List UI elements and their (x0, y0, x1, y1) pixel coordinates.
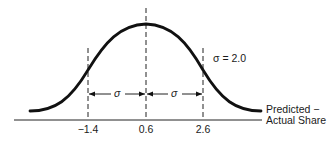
arrow-right-icon (139, 92, 145, 97)
arrow-right-icon (196, 92, 202, 97)
axis-label-line2: Actual Share (266, 115, 326, 126)
arrow-left-icon (147, 92, 153, 97)
arrow-left-icon (89, 92, 95, 97)
sigma-label-left: σ (114, 88, 120, 99)
tick-label-minus-1-4: −1.4 (78, 124, 99, 135)
sigma-label-right: σ (171, 88, 177, 99)
tick-label-0-6: 0.6 (139, 124, 154, 135)
tick-label-2-6: 2.6 (196, 124, 211, 135)
sigma-value-label: σ = 2.0 (213, 53, 246, 64)
